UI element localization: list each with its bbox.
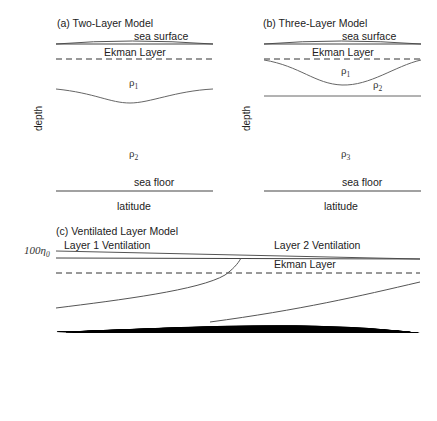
panel-a-sea-surface-label: sea surface — [134, 30, 188, 42]
panel-b-depth-label: depth — [241, 106, 252, 131]
ocean-layer-diagram: (a) Two-Layer Model sea surface Ekman La… — [0, 0, 437, 421]
panel-c-interface-eta1-right — [210, 282, 420, 322]
panel-c-eta0-label: 100η0 — [24, 244, 50, 259]
panel-b-ekman-label: Ekman Layer — [312, 46, 374, 58]
panel-a-rho1: ρ1 — [129, 76, 139, 91]
panel-b-sea-floor-label: sea floor — [342, 176, 383, 188]
panel-b-rho2: ρ2 — [373, 78, 383, 93]
panel-a-rho2: ρ2 — [129, 147, 139, 162]
panel-b-three-layer-model: (b) Three-Layer Model sea surface Ekman … — [241, 17, 421, 212]
panel-a-ekman-label: Ekman Layer — [104, 46, 166, 58]
panel-a-interface — [56, 89, 213, 103]
panel-b-rho3: ρ3 — [341, 147, 351, 162]
panel-c-title: (c) Ventilated Layer Model — [56, 225, 178, 237]
panel-b-title: (b) Three-Layer Model — [263, 17, 367, 29]
panel-a-title: (a) Two-Layer Model — [57, 17, 153, 29]
panel-a-depth-label: depth — [33, 106, 44, 131]
panel-a-two-layer-model: (a) Two-Layer Model sea surface Ekman La… — [33, 17, 213, 212]
panel-c-layer2-ventilation: Layer 2 Ventilation — [274, 239, 361, 251]
panel-b-xlabel: latitude — [324, 200, 358, 212]
panel-c-interface-eta1-left — [56, 258, 241, 308]
panel-a-sea-floor-label: sea floor — [134, 176, 175, 188]
panel-a-xlabel: latitude — [117, 200, 151, 212]
panel-b-rho1: ρ1 — [341, 64, 351, 79]
panel-b-sea-surface-label: sea surface — [342, 30, 396, 42]
panel-c-ventilated-layer-model: (c) Ventilated Layer Model Layer 1 Venti… — [24, 225, 420, 333]
panel-c-layer1-ventilation: Layer 1 Ventilation — [64, 239, 151, 251]
panel-c-ekman-label: Ekman Layer — [274, 258, 336, 270]
